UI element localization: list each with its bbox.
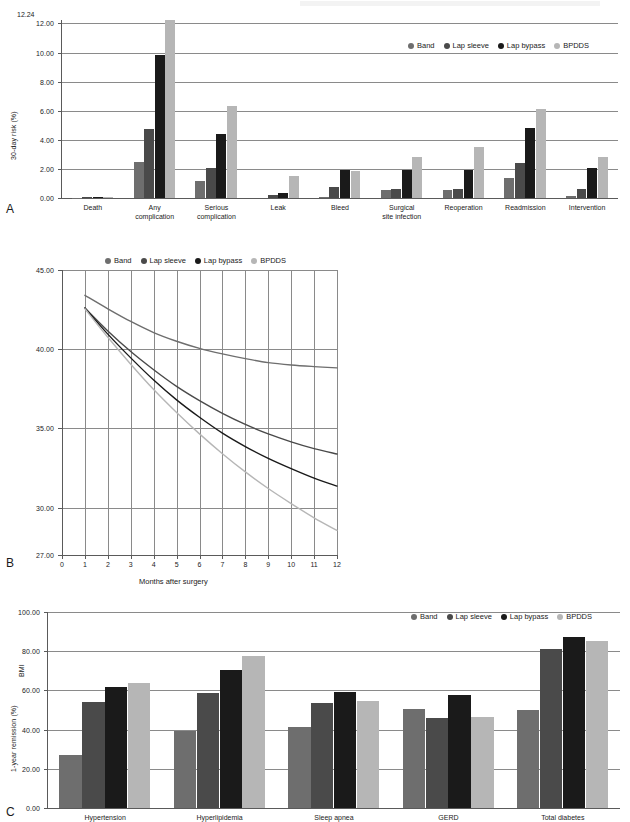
bar-lap-sleeve [515,163,525,198]
panel-c-plot-area: 0.0020.0040.0060.0080.00100.00Hypertensi… [48,612,620,808]
y-tick-label: 2.00 [18,165,54,172]
bar-bpdds [289,176,299,198]
line-lap-bypass [85,308,337,486]
panel-a-legend: BandLap sleeveLap bypassBPDDS [408,41,589,50]
vertical-gridline [337,270,338,555]
panel-a: A 12.24 30-day risk (%) 0.002.004.006.00… [0,0,630,248]
x-category-label: GERD [391,814,505,822]
legend-item-lap-sleeve: Lap sleeve [141,256,186,265]
legend-swatch-icon [501,614,507,620]
y-axis-line [47,612,48,808]
panel-a-top-note: 12.24 [17,11,35,18]
legend-label: Lap sleeve [150,256,186,265]
bar-lap-sleeve [453,189,463,198]
line-band [85,295,337,368]
y-tick-label: 8.00 [18,78,54,85]
panel-c-legend: BandLap sleeveLap bypassBPDDS [411,612,592,621]
y-tick-label: 80.00 [4,648,40,655]
bar-lap-bypass [334,692,356,808]
bar-bpdds [357,701,379,808]
bar-band [59,755,81,808]
bar-lap-bypass [93,197,103,198]
legend-item-bpdds: BPDDS [251,256,286,265]
bar-lap-bypass [105,687,127,808]
legend-label: Lap bypass [204,256,242,265]
bar-band [443,190,453,198]
bar-lap-sleeve [540,649,562,808]
x-axis-line [62,555,337,556]
panel-a-y-axis-title: 30-day risk (%) [10,111,17,160]
legend-item-lap-bypass: Lap bypass [195,256,242,265]
bar-band [381,190,391,198]
panel-c-y-axis-title: 1-year remission (%) [10,705,17,772]
legend-swatch-icon [195,258,201,264]
legend-label: BPDDS [566,612,592,621]
y-tick-label: 20.00 [4,765,40,772]
x-category-label: Leak [247,204,309,213]
x-tick-label: 12 [327,561,347,568]
gridline [62,82,618,83]
x-tick-label: 10 [281,561,301,568]
y-tick-label: 45.00 [20,267,54,274]
x-axis-line [48,808,620,809]
legend-swatch-icon [498,43,504,49]
x-tick-label: 2 [98,561,118,568]
legend-label: Band [420,612,438,621]
legend-item-bpdds: BPDDS [554,41,589,50]
legend-item-bpdds: BPDDS [557,612,592,621]
legend-item-band: Band [408,41,435,50]
bar-band [319,197,329,198]
bar-bpdds [536,109,546,198]
y-tick-label: 40.00 [20,346,54,353]
legend-item-band: Band [411,612,438,621]
x-category-label: Surgical site infection [371,204,433,221]
x-tick-label: 8 [235,561,255,568]
x-tick-mark [337,555,338,559]
bar-lap-bypass [220,670,242,808]
legend-swatch-icon [105,258,111,264]
y-tick-label: 0.00 [4,805,40,812]
legend-label: Band [417,41,435,50]
bar-bpdds [242,656,264,808]
gridline [62,111,618,112]
y-tick-label: 0.00 [18,195,54,202]
legend-item-lap-sleeve: Lap sleeve [444,41,489,50]
legend-label: Lap sleeve [456,612,492,621]
bar-lap-bypass [155,55,165,198]
bar-band [403,709,425,808]
bar-lap-bypass [587,168,597,198]
bar-lap-sleeve [206,168,216,198]
legend-swatch-icon [408,43,414,49]
legend-label: Lap sleeve [453,41,489,50]
x-category-label: Bleed [309,204,371,213]
x-tick-label: 4 [144,561,164,568]
x-category-label: Intervention [556,204,618,213]
bar-bpdds [598,157,608,198]
bar-bpdds [351,171,361,198]
bar-lap-sleeve [329,187,339,198]
legend-swatch-icon [444,43,450,49]
bar-band [517,710,539,808]
x-tick-label: 1 [75,561,95,568]
y-axis-line [61,20,62,198]
y-tick-label: 27.00 [20,552,54,559]
bar-lap-bypass [340,170,350,198]
legend-swatch-icon [251,258,257,264]
y-tick-label: 4.00 [18,136,54,143]
x-tick-label: 11 [304,561,324,568]
bar-lap-bypass [448,695,470,808]
panel-c: C 1-year remission (%) 0.0020.0040.0060.… [0,600,630,822]
bar-lap-bypass [216,134,226,198]
x-category-label: Readmission [494,204,556,213]
y-tick-label: 40.00 [4,726,40,733]
x-tick-label: 9 [258,561,278,568]
x-axis-line [62,198,618,199]
gridline [62,53,618,54]
panel-b-letter: B [6,556,14,570]
y-tick-label: 100.00 [4,609,40,616]
legend-item-lap-bypass: Lap bypass [501,612,548,621]
legend-swatch-icon [554,43,560,49]
x-tick-label: 7 [212,561,232,568]
legend-swatch-icon [411,614,417,620]
bar-lap-bypass [464,170,474,198]
